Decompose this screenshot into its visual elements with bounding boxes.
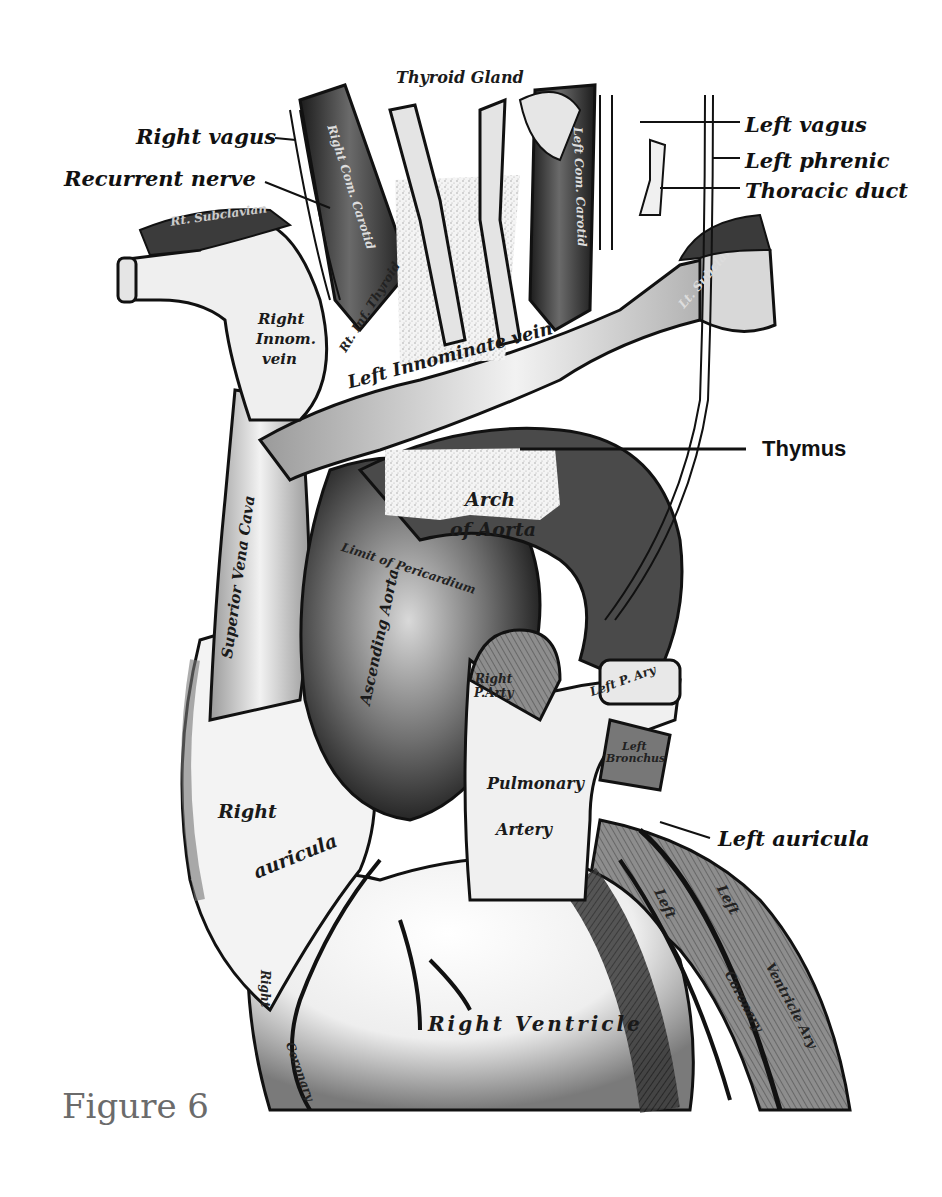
label-left-auricula: Left auricula bbox=[718, 826, 870, 851]
label-recurrent-nerve: Recurrent nerve bbox=[64, 166, 256, 191]
label-right-vagus: Right vagus bbox=[136, 124, 276, 149]
label-thyroid-gland: Thyroid Gland bbox=[396, 68, 524, 87]
label-arch-of-aorta-2: of Aorta bbox=[450, 518, 536, 540]
label-right-innom-vein-2: Innom. bbox=[256, 330, 316, 348]
label-right-p-artery-1: Right bbox=[475, 672, 512, 686]
label-left-bronchus-2: Bronchus bbox=[606, 752, 665, 765]
anatomy-figure: Right vagus Recurrent nerve Left vagus L… bbox=[0, 0, 942, 1197]
label-right-p-artery-2: P.Arty bbox=[474, 686, 513, 700]
label-left-phrenic: Left phrenic bbox=[745, 148, 890, 173]
label-right-auricula-1: Right bbox=[218, 800, 277, 822]
label-right-innom-vein-1: Right bbox=[258, 310, 305, 328]
label-right-ventricle: Right Ventricle bbox=[428, 1012, 643, 1036]
label-arch-of-aorta-1: Arch bbox=[465, 488, 515, 510]
label-thymus: Thymus bbox=[762, 436, 846, 462]
label-right-coronary-1: Right bbox=[258, 970, 272, 1007]
figure-caption: Figure 6 bbox=[62, 1086, 209, 1126]
label-pulmonary-artery-2: Artery bbox=[496, 820, 552, 839]
label-right-innom-vein-3: vein bbox=[262, 350, 297, 368]
label-thoracic-duct: Thoracic duct bbox=[745, 178, 908, 203]
label-pulmonary-artery-1: Pulmonary bbox=[487, 774, 584, 793]
label-left-vagus: Left vagus bbox=[745, 112, 867, 137]
left-auricula-leader bbox=[660, 822, 710, 838]
right-vagus-leader bbox=[275, 138, 296, 140]
